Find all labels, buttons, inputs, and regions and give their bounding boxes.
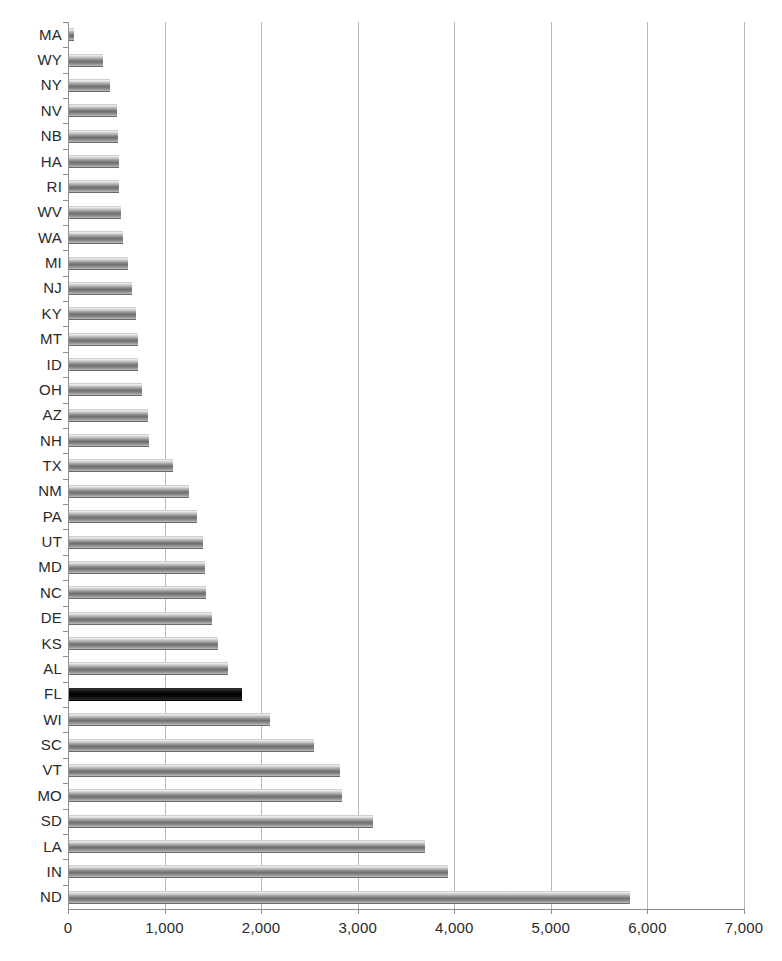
category-label-SD: SD <box>0 813 62 829</box>
bar-WA[interactable] <box>68 231 123 244</box>
bar-row <box>68 580 744 605</box>
bar-row <box>68 47 744 72</box>
bar-row <box>68 149 744 174</box>
category-label-MT: MT <box>0 331 62 347</box>
bar-SC[interactable] <box>68 739 314 752</box>
bar-ND[interactable] <box>68 891 630 904</box>
x-tick-3000 <box>358 909 359 914</box>
bar-row <box>68 22 744 47</box>
category-label-LA: LA <box>0 839 62 855</box>
bar-row <box>68 428 744 453</box>
x-axis-label: 6,000 <box>628 918 667 938</box>
category-label-NH: NH <box>0 433 62 449</box>
category-label-WY: WY <box>0 52 62 68</box>
y-axis-line <box>68 22 69 910</box>
bar-RI[interactable] <box>68 180 119 193</box>
bar-SD[interactable] <box>68 815 373 828</box>
category-label-NJ: NJ <box>0 280 62 296</box>
category-label-NB: NB <box>0 128 62 144</box>
category-label-VT: VT <box>0 762 62 778</box>
x-axis-label: 4,000 <box>435 918 474 938</box>
bar-IN[interactable] <box>68 865 448 878</box>
bar-NM[interactable] <box>68 485 189 498</box>
bar-row <box>68 403 744 428</box>
bar-row <box>68 352 744 377</box>
bar-MD[interactable] <box>68 561 205 574</box>
bar-NC[interactable] <box>68 586 206 599</box>
bar-chart: MAWYNYNVNBHARIWVWAMINJKYMTIDOHAZNHTXNMPA… <box>0 0 782 961</box>
bar-row <box>68 73 744 98</box>
x-axis-label: 0 <box>64 918 73 938</box>
bar-KS[interactable] <box>68 637 218 650</box>
bar-WY[interactable] <box>68 54 103 67</box>
category-label-ND: ND <box>0 889 62 905</box>
bar-row <box>68 606 744 631</box>
bar-NJ[interactable] <box>68 282 132 295</box>
bar-row <box>68 732 744 757</box>
category-label-FL: FL <box>0 686 62 702</box>
bar-rows <box>68 22 744 910</box>
bar-row <box>68 555 744 580</box>
bar-NY[interactable] <box>68 79 110 92</box>
bar-row <box>68 859 744 884</box>
bar-row <box>68 529 744 554</box>
bar-AL[interactable] <box>68 662 228 675</box>
bar-WI[interactable] <box>68 713 270 726</box>
category-label-ID: ID <box>0 357 62 373</box>
bar-row <box>68 834 744 859</box>
bar-MI[interactable] <box>68 257 128 270</box>
x-tick-5000 <box>551 909 552 914</box>
category-label-NC: NC <box>0 585 62 601</box>
bar-PA[interactable] <box>68 510 197 523</box>
category-label-MO: MO <box>0 788 62 804</box>
bar-AZ[interactable] <box>68 409 148 422</box>
bar-DE[interactable] <box>68 612 212 625</box>
category-label-MA: MA <box>0 27 62 43</box>
category-label-NV: NV <box>0 103 62 119</box>
x-axis-line <box>68 909 745 910</box>
category-label-WA: WA <box>0 230 62 246</box>
bar-row <box>68 326 744 351</box>
bar-row <box>68 809 744 834</box>
bar-NH[interactable] <box>68 434 149 447</box>
bar-FL[interactable] <box>68 688 242 701</box>
bar-NV[interactable] <box>68 104 117 117</box>
category-label-HA: HA <box>0 154 62 170</box>
x-tick-2000 <box>261 909 262 914</box>
bar-row <box>68 682 744 707</box>
category-label-IN: IN <box>0 864 62 880</box>
bar-row <box>68 885 744 910</box>
bar-TX[interactable] <box>68 459 173 472</box>
bar-row <box>68 301 744 326</box>
bar-MT[interactable] <box>68 333 138 346</box>
bar-row <box>68 377 744 402</box>
bar-VT[interactable] <box>68 764 340 777</box>
category-label-NM: NM <box>0 483 62 499</box>
bar-NB[interactable] <box>68 130 118 143</box>
x-tick-6000 <box>647 909 648 914</box>
bar-UT[interactable] <box>68 536 203 549</box>
x-axis-label: 2,000 <box>242 918 281 938</box>
bar-row <box>68 656 744 681</box>
category-label-SC: SC <box>0 737 62 753</box>
bar-row <box>68 174 744 199</box>
bar-row <box>68 225 744 250</box>
category-label-AZ: AZ <box>0 407 62 423</box>
category-axis-labels: MAWYNYNVNBHARIWVWAMINJKYMTIDOHAZNHTXNMPA… <box>0 22 62 910</box>
x-axis-label: 7,000 <box>725 918 764 938</box>
x-tick-0 <box>68 909 69 914</box>
bar-MO[interactable] <box>68 789 342 802</box>
bar-row <box>68 504 744 529</box>
bar-row <box>68 707 744 732</box>
bar-row <box>68 250 744 275</box>
bar-KY[interactable] <box>68 307 136 320</box>
bar-OH[interactable] <box>68 383 142 396</box>
bar-HA[interactable] <box>68 155 119 168</box>
category-label-WI: WI <box>0 712 62 728</box>
category-label-PA: PA <box>0 509 62 525</box>
gridline-7000 <box>744 22 745 910</box>
category-label-OH: OH <box>0 382 62 398</box>
bar-ID[interactable] <box>68 358 138 371</box>
bar-WV[interactable] <box>68 206 121 219</box>
bar-LA[interactable] <box>68 840 425 853</box>
